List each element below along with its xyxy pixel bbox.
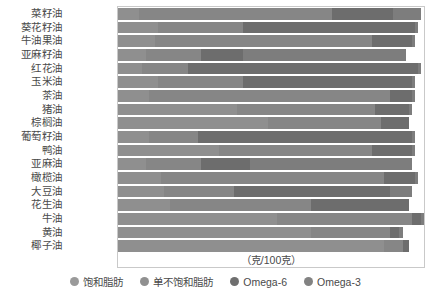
bar-segment [155,35,372,47]
stacked-bar [118,227,403,239]
oil-fat-composition-chart: 菜籽油葵花籽油牛油果油亚麻籽油红花油玉米油茶油猪油棕榈油葡萄籽油鸭油亚麻油橄榄油… [0,0,431,298]
stacked-bar [118,158,412,170]
bar-segment [188,63,417,75]
bar-segment [118,76,158,88]
bar-segment [332,8,393,20]
legend-item-label: 饱和脂肪 [83,274,123,289]
bar-segment [234,186,390,198]
bar-segment [384,172,415,184]
bar-segment [118,8,139,20]
bar-segment [418,63,421,75]
bar-segment [393,8,421,20]
stacked-bar [118,104,412,116]
legend-dot-icon [140,277,149,286]
bar-segment [219,145,372,157]
stacked-bar [118,22,418,34]
bar-segment [142,63,188,75]
stacked-bar [118,63,421,75]
bar-segment [243,76,411,88]
bar-segment [118,227,311,239]
legend-item[interactable]: Omega-6 [230,276,287,288]
bar-segment [412,131,415,143]
stacked-bar [118,49,406,61]
bar-segment [243,49,405,61]
bar-segment [384,240,402,252]
legend-item[interactable]: Omega-3 [304,276,361,288]
bar-segment [118,35,155,47]
bar-segment [164,186,234,198]
bar-segment [146,49,201,61]
bar-segment [412,76,415,88]
chart-legend: 饱和脂肪单不饱和脂肪Omega-6Omega-3 [0,274,431,289]
x-axis-title: （克/100克） [117,252,425,267]
bar-segment [381,117,409,129]
stacked-bar [118,76,415,88]
bar-segment [201,158,250,170]
bar-segment [412,213,421,225]
bar-segment [161,172,384,184]
bar-segment [118,49,146,61]
bar-segment [118,131,149,143]
bar-segment [412,35,415,47]
bar-segment [158,76,244,88]
bar-segment [409,104,412,116]
bar-segment [118,158,146,170]
bar-segment [118,145,219,157]
bar-segment [390,227,399,239]
bar-segment [277,213,412,225]
legend-item-label: Omega-6 [243,276,287,288]
legend-dot-icon [70,277,79,286]
stacked-bar [118,186,412,198]
stacked-bar [118,172,418,184]
legend-item[interactable]: 饱和脂肪 [70,274,123,289]
bar-segment [237,104,375,116]
bar-segment [118,117,268,129]
bar-segment [311,227,391,239]
legend-item-label: 单不饱和脂肪 [153,274,213,289]
bar-segment [139,8,332,20]
bar-segment [118,63,142,75]
bar-segment [268,117,381,129]
legend-item-label: Omega-3 [317,276,361,288]
bar-segment [149,131,198,143]
bar-segment [403,240,409,252]
bar-segment [198,131,412,143]
bar-segment [158,22,244,34]
bar-segment [149,90,391,102]
bar-segment [118,172,161,184]
legend-dot-icon [230,277,239,286]
bar-segment [146,158,201,170]
bar-segment [412,145,415,157]
bar-segment [399,227,402,239]
bar-segment [250,158,412,170]
bar-segment [118,186,164,198]
bar-segment [372,145,412,157]
bar-segment [415,172,418,184]
bar-segment [415,22,418,34]
stacked-bar [118,131,415,143]
bar-segment [118,213,277,225]
bar-segment [118,90,149,102]
bar-segment [412,90,415,102]
bar-segment [201,49,244,61]
stacked-bar [118,117,409,129]
bar-row-label: 椰子油 [0,238,62,253]
bar-segment [243,22,414,34]
bar-segment [118,104,237,116]
bar-segment [390,90,411,102]
bar-segment [372,35,412,47]
bar-segment [390,186,411,198]
bar-segment [170,199,311,211]
stacked-bar [118,199,409,211]
stacked-bar [118,213,424,225]
stacked-bar [118,145,415,157]
stacked-bar [118,35,415,47]
bar-segment [311,199,409,211]
bar-segment [118,22,158,34]
bar-segment [375,104,409,116]
bar-segment [118,240,384,252]
legend-item[interactable]: 单不饱和脂肪 [140,274,213,289]
stacked-bar [118,90,415,102]
stacked-bar [118,240,409,252]
stacked-bar [118,8,421,20]
